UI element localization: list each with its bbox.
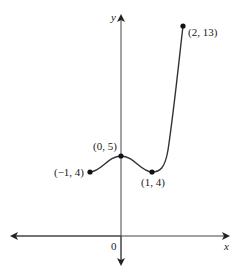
point-label-1-4: (1, 4) <box>141 176 165 189</box>
point-neg1-4 <box>87 169 92 174</box>
x-axis-label: x <box>223 240 229 252</box>
point-2-13 <box>180 23 185 28</box>
point-label-2-13: (2, 13) <box>188 26 218 39</box>
point-0-5 <box>118 153 123 158</box>
point-1-4 <box>149 169 154 174</box>
origin-label: 0 <box>111 240 117 252</box>
point-label-neg1-4: (−1, 4) <box>54 166 84 179</box>
point-label-0-5: (0, 5) <box>93 140 117 153</box>
y-axis-label: y <box>110 11 116 23</box>
function-graph: y x 0 (−1, 4) (0, 5) (1, 4) (2, 13) <box>0 0 237 274</box>
